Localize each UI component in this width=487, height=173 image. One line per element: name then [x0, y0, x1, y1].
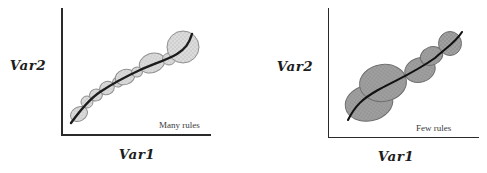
- cluster-bubble: [167, 31, 199, 63]
- left-y-axis-label: Var2: [6, 57, 50, 73]
- left-plot-annotation: Many rules: [159, 120, 200, 130]
- two-panel-bubble-figure: Var2 Var1 Var2 Var1 Many rules Few rules: [0, 0, 487, 173]
- bubble-group-0: [68, 31, 199, 125]
- right-plot-annotation: Few rules: [416, 123, 451, 133]
- right-y-axis-label: Var2: [273, 58, 317, 74]
- right-x-axis-label: Var1: [371, 148, 421, 164]
- left-x-axis-label: Var1: [112, 146, 162, 162]
